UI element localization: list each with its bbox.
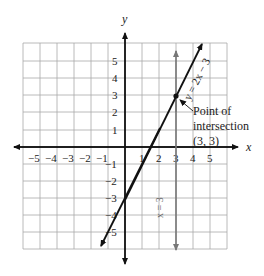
svg-text:3: 3 bbox=[112, 89, 118, 101]
svg-text:−5: −5 bbox=[28, 152, 40, 164]
svg-text:−2: −2 bbox=[79, 152, 91, 164]
svg-text:−1: −1 bbox=[105, 158, 117, 170]
intersection-point bbox=[173, 93, 178, 98]
y-axis-label: y bbox=[121, 12, 128, 26]
annotation-line-1: Point of bbox=[193, 104, 231, 118]
svg-text:2: 2 bbox=[112, 106, 118, 118]
svg-text:−3: −3 bbox=[62, 152, 74, 164]
annotation-line-3: (3, 3) bbox=[193, 134, 219, 148]
svg-text:5: 5 bbox=[112, 55, 118, 67]
svg-text:4: 4 bbox=[112, 72, 118, 84]
x-tick-labels: −5 −4 −3 −2 −1 1 2 3 4 5 bbox=[28, 152, 213, 164]
svg-text:5: 5 bbox=[207, 152, 213, 164]
line-y-equals-2x-minus-3-lower bbox=[101, 128, 160, 246]
svg-text:−4: −4 bbox=[45, 152, 57, 164]
svg-text:−2: −2 bbox=[105, 175, 117, 187]
svg-text:4: 4 bbox=[190, 152, 196, 164]
svg-text:1: 1 bbox=[112, 124, 118, 136]
svg-text:2: 2 bbox=[156, 152, 162, 164]
graph: x y −5 −4 −3 −2 −1 1 2 3 4 5 5 4 3 2 1 −… bbox=[0, 0, 264, 276]
label-x-equals-3: x = 3 bbox=[154, 197, 165, 218]
x-axis-label: x bbox=[245, 140, 252, 154]
annotation-line-2: intersection bbox=[193, 119, 249, 133]
svg-text:−3: −3 bbox=[105, 192, 117, 204]
